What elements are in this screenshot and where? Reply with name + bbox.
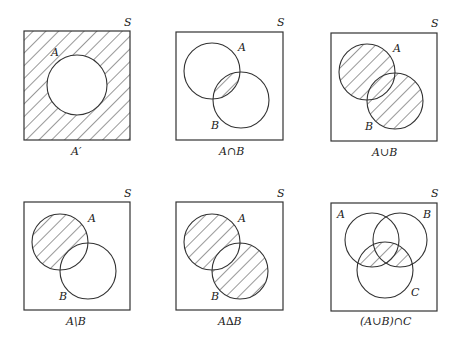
set-a-label: A <box>237 212 246 225</box>
universal-set-label: S <box>124 187 132 200</box>
universal-set-label: S <box>124 16 132 29</box>
caption: A\B <box>65 315 86 328</box>
set-b-label: B <box>364 120 373 133</box>
set-a-circle <box>184 43 240 99</box>
set-b-label: B <box>210 290 219 303</box>
venn-union: S A B A∪B <box>331 17 439 159</box>
caption: A∪B <box>371 146 397 159</box>
set-b-label: B <box>210 119 219 132</box>
set-a-label: A <box>336 208 345 221</box>
shaded-region <box>24 202 130 310</box>
caption: A∩B <box>218 145 244 158</box>
shaded-region <box>24 31 130 140</box>
universal-set-label: S <box>277 187 285 200</box>
set-b-label: B <box>58 290 67 303</box>
set-c-label: C <box>411 286 420 299</box>
venn-union-intersect-c: S A B C (A∪B)∩C <box>331 187 439 328</box>
caption: A′ <box>70 145 82 158</box>
set-a-label: A <box>392 42 401 55</box>
venn-complement-a: S A A′ <box>24 16 132 158</box>
set-a-label: A <box>87 212 96 225</box>
venn-symmetric-difference: S A B A∆B <box>176 187 285 328</box>
set-b-label: B <box>422 208 431 221</box>
venn-difference: S A B A\B <box>24 187 132 328</box>
venn-diagrams-figure: S A A′ S A B A∩B S A B A∪B S A B A\B <box>0 0 462 342</box>
caption: A∆B <box>217 315 242 328</box>
universal-set-label: S <box>431 17 439 30</box>
set-b-circle <box>213 72 269 128</box>
set-a-label: A <box>237 41 246 54</box>
universal-set-label: S <box>431 187 439 200</box>
shaded-region <box>176 202 283 310</box>
set-a-label: A <box>50 46 59 59</box>
caption: (A∪B)∩C <box>360 315 412 328</box>
venn-intersection: S A B A∩B <box>176 16 285 158</box>
universal-set-label: S <box>277 16 285 29</box>
